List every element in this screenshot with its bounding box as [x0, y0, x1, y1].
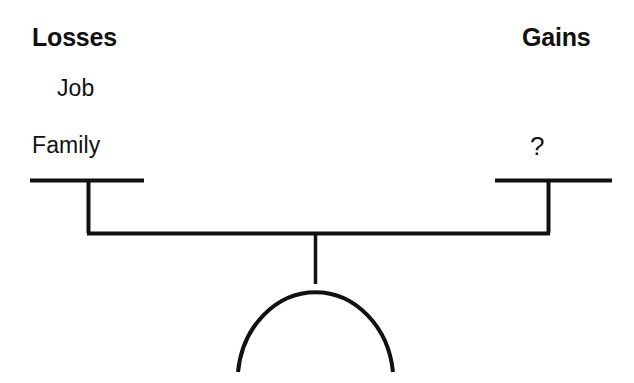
balance-scale-graphic — [0, 0, 634, 383]
base-arc — [238, 292, 393, 372]
diagram-canvas: Losses Gains Job Family ? — [0, 0, 634, 383]
